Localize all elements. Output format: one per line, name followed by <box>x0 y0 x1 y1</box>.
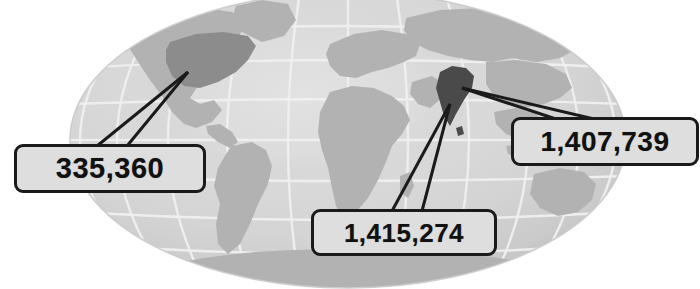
new-zealand-shape <box>606 208 620 228</box>
world-map-figure: 335,360 1,415,274 1,407,739 <box>0 0 700 289</box>
callout-value-india-left: 1,415,274 <box>344 220 464 246</box>
callout-united-states[interactable]: 335,360 <box>14 144 206 193</box>
callout-value-india-right: 1,407,739 <box>540 128 669 156</box>
callout-india-right[interactable]: 1,407,739 <box>511 117 699 166</box>
callout-value-usa: 335,360 <box>56 154 164 183</box>
callout-india-left[interactable]: 1,415,274 <box>311 209 497 256</box>
